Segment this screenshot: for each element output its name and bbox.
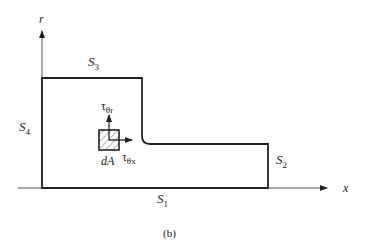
area-element-label: dA xyxy=(101,154,115,168)
surface-label-s1: S1 xyxy=(157,191,168,209)
figure-caption: (b) xyxy=(163,227,176,240)
stress-label-theta-x: τθx xyxy=(122,150,136,166)
surface-label-s2: S2 xyxy=(276,152,287,170)
surface-label-s3: S3 xyxy=(88,54,100,72)
r-axis-label: r xyxy=(39,12,44,26)
x-axis-label: x xyxy=(342,181,349,195)
cross-section-diagram: r x S3 S4 S2 S1 τθr τθx dA (b) xyxy=(0,0,366,250)
surface-label-s4: S4 xyxy=(19,119,31,137)
section-outline xyxy=(42,78,268,188)
stress-label-theta-r: τθr xyxy=(101,99,113,115)
